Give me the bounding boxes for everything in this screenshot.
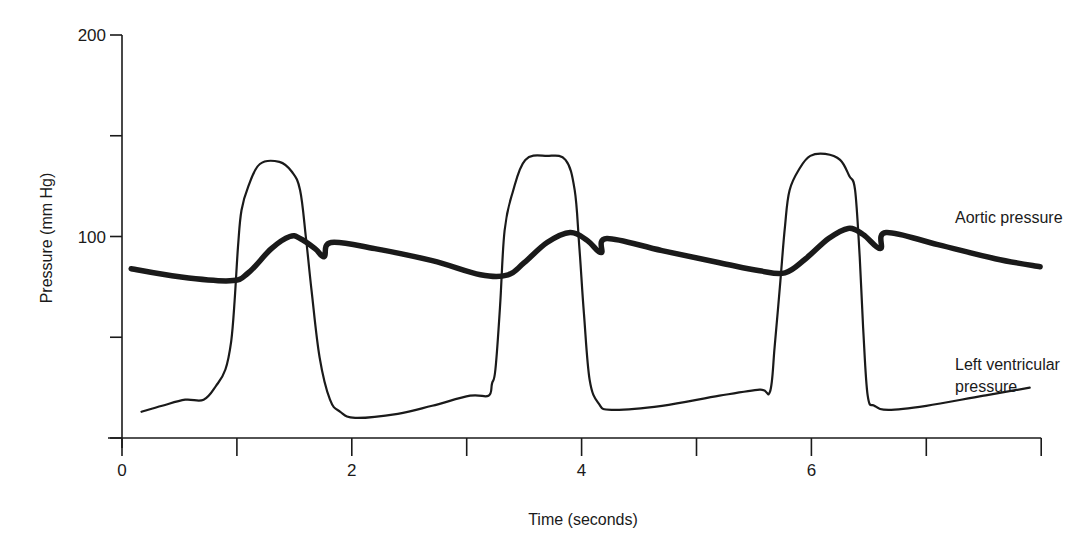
aortic-pressure-label: Aortic pressure [955,209,1063,226]
pressure-time-chart: 100200 0246 Pressure (mm Hg) Time (secon… [0,0,1075,554]
x-tick-label: 6 [807,461,816,480]
x-tick-label: 0 [117,461,126,480]
y-axis: 100200 [78,26,122,448]
y-tick-label: 200 [78,26,106,45]
y-axis-title: Pressure (mm Hg) [38,173,55,304]
y-tick-label: 100 [78,228,106,247]
x-axis-title: Time (seconds) [528,511,638,528]
lv-pressure-label-line2: pressure [955,378,1017,395]
x-tick-label: 4 [577,461,586,480]
left-ventricular-pressure-line [142,154,1030,418]
x-tick-label: 2 [347,461,356,480]
x-axis: 0246 [108,438,1041,480]
lv-pressure-label-line1: Left ventricular [955,356,1061,373]
series-layer [131,154,1040,418]
aortic-pressure-line [131,228,1040,281]
